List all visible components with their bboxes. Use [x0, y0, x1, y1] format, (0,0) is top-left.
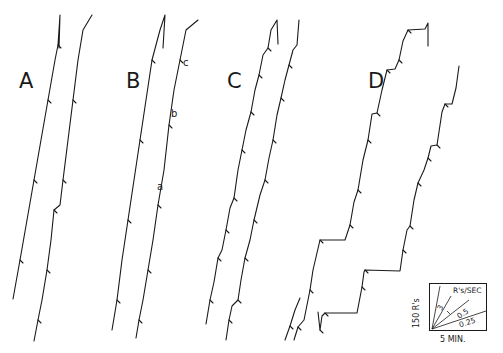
panel-label-b: B [126, 71, 140, 92]
reinforcement-tick-mark [73, 100, 76, 103]
reinforcement-tick-mark [117, 300, 120, 303]
reinforcement-tick-mark [140, 140, 143, 143]
reinforcement-tick-mark [298, 327, 301, 330]
reinforcement-tick-mark [320, 330, 323, 333]
reinforcement-tick-mark [251, 112, 254, 115]
reinforcement-tick-mark [210, 300, 213, 303]
legend-x-scale: 5 MIN. [440, 335, 465, 344]
panel-label-a: A [19, 71, 33, 92]
reinforcement-tick-mark [437, 145, 440, 148]
legend-y-scale: 150 R's [412, 298, 421, 328]
reinforcement-tick-mark [290, 326, 293, 329]
reinforcement-tick-mark [403, 250, 406, 253]
reinforcement-tick-mark [47, 270, 50, 273]
reinforcement-tick-mark [152, 60, 155, 63]
reinforcement-tick-mark [234, 198, 237, 201]
reinforcement-tick-mark [20, 260, 23, 263]
reinforcement-tick-mark [139, 320, 142, 323]
curve-a-1 [13, 15, 60, 299]
reinforcement-tick-mark [38, 320, 41, 323]
reinforcement-tick-mark [48, 100, 51, 103]
panel-label-d: D [368, 71, 384, 92]
reinforcement-tick-mark [350, 225, 353, 228]
reinforcement-tick-mark [358, 190, 361, 193]
curve-b-2 [136, 20, 198, 338]
reinforcement-tick-mark [368, 140, 371, 143]
reinforcement-tick-mark [289, 65, 292, 68]
reinforcement-tick-mark [54, 210, 57, 213]
legend-rate-title: R's/SEC [453, 287, 481, 295]
curve-c-3 [285, 298, 300, 340]
point-label-b: b [171, 109, 177, 119]
point-label-c: c [183, 58, 189, 68]
reinforcement-tick-mark [310, 290, 313, 293]
reinforcement-tick-mark [128, 220, 131, 223]
cumulative-record-figure [0, 0, 503, 353]
reinforcement-tick-mark [169, 125, 172, 128]
reinforcement-tick-mark [242, 150, 245, 153]
reinforcement-tick-mark [218, 258, 221, 261]
reinforcement-tick-mark [281, 98, 284, 101]
reinforcement-tick-mark [399, 60, 402, 63]
reinforcement-tick-mark [268, 48, 271, 51]
reinforcement-tick-mark [362, 287, 365, 290]
reinforcement-tick-mark [259, 75, 262, 78]
reinforcement-tick-mark [273, 140, 276, 143]
point-label-a: a [157, 182, 163, 192]
reinforcement-tick-mark [418, 183, 421, 186]
reinforcement-tick-mark [229, 320, 232, 323]
reinforcement-tick-mark [158, 205, 161, 208]
reinforcement-tick-mark [410, 226, 413, 229]
reinforcement-tick-mark [245, 258, 248, 261]
curve-b-1 [112, 15, 165, 330]
curve-a-2 [34, 15, 92, 341]
reinforcement-tick-mark [428, 158, 431, 161]
cumulative-curves [13, 15, 459, 341]
reinforcement-tick-mark [148, 270, 151, 273]
reinforcement-tick-mark [377, 113, 380, 116]
reinforcement-tick-mark [34, 180, 37, 183]
reinforcement-tick-mark [387, 70, 390, 73]
panel-label-c: C [227, 71, 242, 92]
reinforcement-tick-mark [63, 180, 66, 183]
reinforcement-tick-mark [226, 230, 229, 233]
curve-c-1 [206, 20, 278, 324]
reinforcement-tick-mark [238, 300, 241, 303]
reinforcement-tick-mark [254, 220, 257, 223]
reinforcement-tick-mark [265, 180, 268, 183]
